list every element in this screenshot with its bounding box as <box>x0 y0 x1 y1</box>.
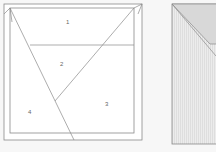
right-panel <box>172 4 216 144</box>
left-panel: 1 2 3 4 <box>4 4 142 140</box>
folding-diagram: 1 2 3 4 <box>0 0 216 152</box>
